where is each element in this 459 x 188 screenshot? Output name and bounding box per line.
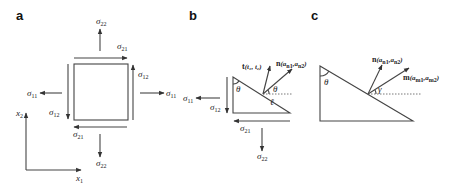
label-normal-vector-b: n(an1,an2): [276, 59, 307, 69]
label-bottom-normal-b: σ22: [257, 151, 267, 162]
label-left-shear: σ12: [49, 107, 59, 118]
label-direction-vector-m: m(am1,am2): [403, 73, 439, 83]
panel-c: c θ n(an1,an2) m(am1,am2) γ: [311, 8, 439, 121]
panel-label-a: a: [16, 8, 24, 23]
vector-normal-n-b: [263, 69, 292, 94]
label-bottom-shear: σ21: [73, 129, 83, 140]
panel-b: b θ σ12 σ11 σ21 σ22 t(t₁, t₂) n(an1,an2)…: [183, 8, 307, 162]
wedge-triangle-b: [233, 77, 290, 113]
label-top-shear: σ21: [117, 41, 127, 52]
label-axis-x1: x1: [75, 173, 83, 184]
angle-arc-theta-top-c: [320, 71, 329, 76]
panel-a: a σ22 σ21 σ12 σ11 σ11 σ12 σ21 σ22 x2 x1: [15, 8, 176, 184]
panel-label-b: b: [189, 8, 197, 23]
label-traction-vector: t(t₁, t₂): [242, 62, 262, 71]
label-theta-top-c: θ: [324, 77, 329, 87]
label-bottom-normal: σ22: [96, 158, 106, 169]
stress-element-square: [74, 64, 128, 120]
label-theta-point-b: θ: [273, 84, 278, 94]
label-left-normal-b: σ11: [183, 93, 193, 104]
stress-diagram-figure: a σ22 σ21 σ12 σ11 σ11 σ12 σ21 σ22 x2 x1: [0, 0, 459, 188]
label-gamma: γ: [378, 84, 382, 94]
label-normal-vector-c: n(an1,an2): [372, 55, 403, 65]
label-left-shear-b: σ12: [210, 102, 220, 113]
label-length-ell: ℓ: [270, 97, 274, 107]
label-left-normal: σ11: [27, 88, 37, 99]
label-bottom-shear-b: σ21: [240, 123, 250, 134]
panel-label-c: c: [311, 8, 318, 23]
label-right-normal: σ11: [166, 88, 176, 99]
label-top-normal: σ22: [96, 16, 106, 27]
angle-arc-gamma: [375, 90, 376, 94]
label-right-shear: σ12: [138, 69, 148, 80]
label-axis-x2: x2: [15, 108, 23, 119]
label-theta-top-b: θ: [236, 84, 241, 94]
angle-arc-theta-point-b: [268, 90, 269, 94]
vector-traction-t: [263, 66, 270, 94]
